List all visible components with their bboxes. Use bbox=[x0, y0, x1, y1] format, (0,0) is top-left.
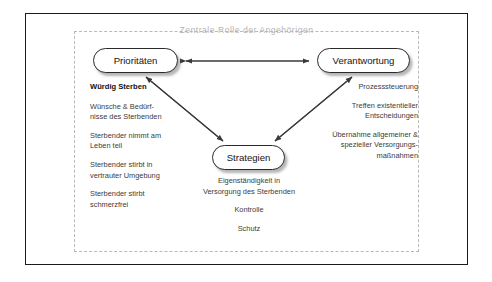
strategies-detail-list: Eigenständigkeit inVersorgung des Sterbe… bbox=[184, 176, 314, 234]
detail-paragraph: Sterbender nimmt amLeben teil bbox=[90, 131, 188, 152]
detail-paragraph: Wünsche & Bedürf-nisse des Sterbenden bbox=[90, 102, 188, 123]
responsibility-detail-items: ProzesssteuerungTreffen existentiellerEn… bbox=[293, 82, 418, 162]
diagram-canvas: Zentrale Rolle der Angehörigen Priorität… bbox=[0, 0, 492, 282]
detail-paragraph: Kontrolle bbox=[184, 205, 314, 216]
detail-paragraph: Übernahme allgemeiner &spezieller Versor… bbox=[293, 130, 418, 162]
detail-paragraph: Schutz bbox=[184, 224, 314, 235]
strategies-detail-items: Eigenständigkeit inVersorgung des Sterbe… bbox=[184, 176, 314, 234]
node-strategien-label: Strategien bbox=[227, 152, 271, 163]
node-verantwortung-label: Verantwortung bbox=[333, 55, 395, 66]
node-prioritaeten-label: Prioritäten bbox=[114, 55, 158, 66]
node-strategien[interactable]: Strategien bbox=[212, 145, 285, 170]
priorities-detail-heading: Würdig Sterben bbox=[90, 82, 188, 93]
node-prioritaeten[interactable]: Prioritäten bbox=[93, 48, 178, 73]
detail-paragraph: Prozesssteuerung bbox=[293, 82, 418, 93]
responsibility-detail-list: ProzesssteuerungTreffen existentiellerEn… bbox=[293, 82, 418, 162]
diagram-title: Zentrale Rolle der Angehörigen bbox=[74, 25, 419, 35]
priorities-detail-list: Würdig Sterben Wünsche & Bedürf-nisse de… bbox=[90, 82, 188, 210]
priorities-detail-items: Wünsche & Bedürf-nisse des SterbendenSte… bbox=[90, 102, 188, 211]
detail-paragraph: Sterbender stirbtschmerzfrei bbox=[90, 189, 188, 210]
node-verantwortung[interactable]: Verantwortung bbox=[317, 48, 410, 73]
detail-paragraph: Eigenständigkeit inVersorgung des Sterbe… bbox=[184, 176, 314, 197]
detail-paragraph: Sterbender stirbt invertrauter Umgebung bbox=[90, 160, 188, 181]
detail-paragraph: Treffen existentiellerEntscheidungen bbox=[293, 101, 418, 122]
